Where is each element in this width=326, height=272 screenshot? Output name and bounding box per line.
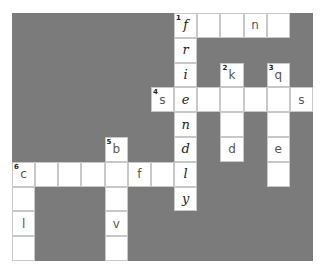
blocked-cell	[35, 137, 58, 162]
blocked-cell	[35, 187, 58, 212]
cell-letter: s	[152, 93, 173, 107]
blocked-cell	[12, 63, 35, 88]
blocked-cell	[105, 87, 128, 112]
blocked-cell	[290, 137, 313, 162]
blocked-cell	[128, 63, 151, 88]
blocked-cell	[35, 38, 58, 63]
blocked-cell	[58, 137, 81, 162]
blocked-cell	[151, 236, 174, 261]
crossword-cell[interactable]: n	[174, 112, 197, 137]
blocked-cell	[128, 87, 151, 112]
cell-letter: c	[13, 167, 34, 181]
crossword-cell[interactable]	[220, 87, 243, 112]
crossword-cell[interactable]: e	[174, 87, 197, 112]
blocked-cell	[81, 38, 104, 63]
crossword-cell[interactable]	[197, 13, 220, 38]
blocked-cell	[35, 13, 58, 38]
crossword-cell[interactable]: n	[244, 13, 267, 38]
crossword-cell[interactable]: 4s	[151, 87, 174, 112]
blocked-cell	[12, 87, 35, 112]
blocked-cell	[151, 112, 174, 137]
crossword-cell[interactable]: y	[174, 187, 197, 212]
crossword-cell[interactable]	[81, 162, 104, 187]
crossword-cell[interactable]	[244, 87, 267, 112]
blocked-cell	[244, 137, 267, 162]
blocked-cell	[105, 38, 128, 63]
crossword-cell[interactable]: 5b	[105, 137, 128, 162]
crossword-cell[interactable]	[220, 112, 243, 137]
blocked-cell	[12, 13, 35, 38]
cell-letter: k	[221, 68, 242, 82]
crossword-cell[interactable]: 3q	[267, 63, 290, 88]
blocked-cell	[174, 211, 197, 236]
blocked-cell	[105, 112, 128, 137]
blocked-cell	[81, 13, 104, 38]
cell-letter: q	[268, 68, 289, 82]
blocked-cell	[267, 236, 290, 261]
crossword-cell[interactable]: 1f	[174, 13, 197, 38]
crossword-cell[interactable]: f	[128, 162, 151, 187]
key-word-letter: e	[175, 93, 196, 107]
blocked-cell	[151, 63, 174, 88]
blocked-cell	[290, 38, 313, 63]
blocked-cell	[58, 211, 81, 236]
blocked-cell	[244, 38, 267, 63]
cell-letter: l	[13, 217, 34, 231]
blocked-cell	[81, 137, 104, 162]
crossword-cell[interactable]	[58, 162, 81, 187]
blocked-cell	[244, 236, 267, 261]
crossword-cell[interactable]	[267, 87, 290, 112]
crossword-cell[interactable]	[35, 162, 58, 187]
crossword-cell[interactable]	[12, 187, 35, 212]
blocked-cell	[220, 38, 243, 63]
crossword-cell[interactable]: v	[105, 211, 128, 236]
crossword-cell[interactable]	[105, 187, 128, 212]
crossword-cell[interactable]	[267, 13, 290, 38]
crossword-cell[interactable]	[267, 112, 290, 137]
crossword-cell[interactable]: i	[174, 63, 197, 88]
crossword-cell[interactable]	[197, 87, 220, 112]
blocked-cell	[151, 137, 174, 162]
crossword-cell[interactable]	[105, 236, 128, 261]
crossword-cell[interactable]: 6c	[12, 162, 35, 187]
key-word-letter: d	[175, 142, 196, 156]
blocked-cell	[128, 112, 151, 137]
blocked-cell	[128, 137, 151, 162]
blocked-cell	[290, 162, 313, 187]
key-word-letter: y	[175, 192, 196, 206]
blocked-cell	[244, 63, 267, 88]
blocked-cell	[197, 236, 220, 261]
blocked-cell	[220, 211, 243, 236]
crossword-cell[interactable]	[151, 162, 174, 187]
blocked-cell	[197, 187, 220, 212]
crossword-cell[interactable]: e	[267, 137, 290, 162]
blocked-cell	[197, 63, 220, 88]
crossword-cell[interactable]: d	[174, 137, 197, 162]
key-word-letter: n	[175, 118, 196, 132]
cell-letter: b	[106, 142, 127, 156]
crossword-cell[interactable]	[105, 162, 128, 187]
crossword-cell[interactable]	[220, 13, 243, 38]
blocked-cell	[12, 112, 35, 137]
crossword-cell[interactable]	[12, 236, 35, 261]
blocked-cell	[290, 236, 313, 261]
blocked-cell	[267, 187, 290, 212]
blocked-cell	[58, 187, 81, 212]
crossword-cell[interactable]: s	[290, 87, 313, 112]
blocked-cell	[12, 38, 35, 63]
crossword-cell[interactable]	[267, 162, 290, 187]
blocked-cell	[128, 13, 151, 38]
crossword-cell[interactable]: d	[220, 137, 243, 162]
blocked-cell	[290, 112, 313, 137]
blocked-cell	[197, 211, 220, 236]
blocked-cell	[197, 112, 220, 137]
blocked-cell	[244, 187, 267, 212]
blocked-cell	[12, 137, 35, 162]
crossword-cell[interactable]: l	[12, 211, 35, 236]
blocked-cell	[105, 63, 128, 88]
crossword-cell[interactable]: 2k	[220, 63, 243, 88]
blocked-cell	[244, 211, 267, 236]
crossword-cell[interactable]: r	[174, 38, 197, 63]
cell-letter: n	[245, 18, 266, 32]
crossword-cell[interactable]: l	[174, 162, 197, 187]
